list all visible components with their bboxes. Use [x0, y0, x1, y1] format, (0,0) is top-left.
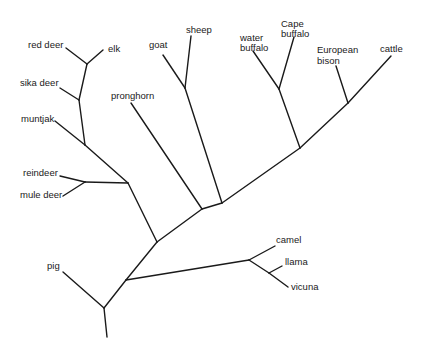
- label-muntjak: muntjak: [21, 114, 54, 124]
- branch-internal-a: [104, 280, 126, 308]
- branch-llama: [269, 266, 282, 273]
- branch-muntjak: [55, 121, 85, 145]
- branch-cape-buffalo: [279, 37, 294, 89]
- branch-elk: [87, 50, 103, 64]
- phylogenetic-tree-diagram: red deer elk sika deer muntjak reindeer …: [0, 0, 421, 353]
- branch-pig: [63, 272, 104, 308]
- branch-bovinae: [222, 148, 300, 203]
- branch-vicuna: [269, 273, 288, 287]
- root-branch: [104, 308, 107, 337]
- label-reindeer: reindeer: [23, 168, 58, 178]
- branch-camel: [249, 246, 275, 260]
- branch-caprinae: [185, 88, 222, 203]
- branch-sika-deer: [60, 88, 79, 100]
- branch-reindeer: [60, 176, 85, 182]
- branch-red-elk: [79, 64, 87, 100]
- branch-internal-b: [126, 242, 157, 280]
- branch-deer-stem: [128, 183, 157, 242]
- branch-pronghorn: [131, 103, 202, 209]
- label-sika-deer: sika deer: [20, 78, 59, 88]
- label-vicuna: vicuna: [291, 282, 318, 292]
- label-cape-buffalo-line2: buffalo: [281, 29, 309, 39]
- label-water-buffalo-line2: buffalo: [240, 43, 268, 53]
- label-llama: llama: [285, 257, 308, 267]
- label-european-bison-line2: bison: [317, 56, 340, 66]
- branch-cervus: [79, 100, 85, 145]
- label-camel: camel: [276, 235, 301, 245]
- label-goat: goat: [149, 40, 168, 50]
- label-sheep: sheep: [186, 25, 212, 35]
- label-pig: pig: [47, 261, 60, 271]
- branch-camelid-stem: [126, 260, 249, 280]
- branch-water-buffalo: [253, 51, 279, 89]
- branch-buffalo-stem: [279, 89, 300, 148]
- branch-goat: [163, 55, 185, 88]
- branch-sheep: [185, 36, 191, 88]
- branch-european-bison: [336, 66, 348, 103]
- branch-pecora-stem: [157, 209, 202, 242]
- branch-bovidae: [202, 203, 222, 209]
- label-cattle: cattle: [380, 44, 403, 54]
- label-pronghorn: pronghorn: [111, 91, 154, 101]
- label-european-bison-line1: European: [317, 45, 358, 55]
- branch-red-deer: [66, 48, 87, 64]
- branch-llama-vicuna: [249, 260, 269, 273]
- label-elk: elk: [108, 44, 120, 54]
- branch-reindeer-mule: [85, 182, 128, 183]
- branch-cattle: [348, 56, 391, 103]
- branch-mule-deer: [63, 182, 85, 196]
- branch-cervinae: [85, 145, 128, 183]
- label-mule-deer: mule deer: [20, 190, 62, 200]
- branch-bos-stem: [300, 103, 348, 148]
- label-red-deer: red deer: [28, 40, 63, 50]
